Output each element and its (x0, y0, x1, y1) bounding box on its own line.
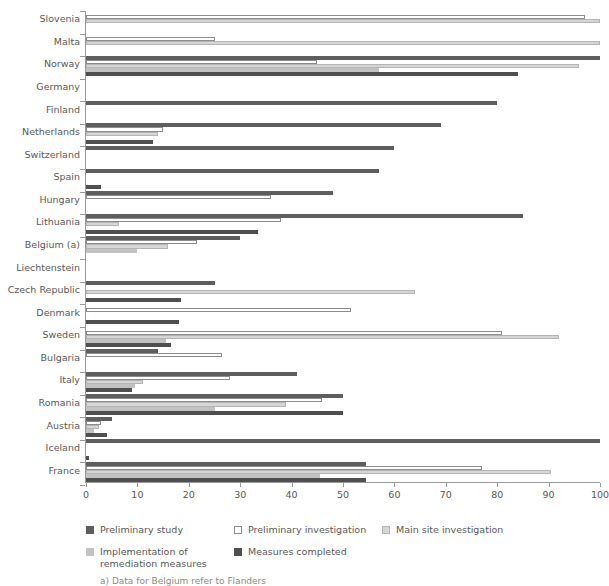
bar (86, 41, 600, 45)
legend-label: Main site investigation (396, 524, 503, 536)
bar (86, 185, 101, 189)
legend-item[interactable]: Preliminary investigation (234, 524, 366, 536)
bar (86, 230, 258, 234)
category-label: Switzerland (25, 150, 80, 160)
bar (86, 343, 171, 347)
category-label: Norway (44, 59, 80, 69)
x-axis-tick (292, 483, 293, 487)
x-axis-tick-label: 50 (337, 489, 349, 500)
x-axis-tick (600, 483, 601, 487)
y-axis-tick (80, 214, 85, 215)
category-label: Belgium (a) (25, 240, 80, 250)
category-label: Malta (54, 37, 80, 47)
x-axis-tick-label: 80 (491, 489, 503, 500)
category-label: Romania (38, 398, 80, 408)
bar (86, 146, 394, 150)
bar (86, 353, 222, 357)
chart-legend: Preliminary studyPreliminary investigati… (86, 524, 586, 570)
category-label: Austria (46, 421, 80, 431)
y-axis-tick (80, 350, 85, 351)
y-axis-tick (80, 237, 85, 238)
category-label: Spain (53, 172, 80, 182)
category-label: Finland (46, 105, 80, 115)
x-axis-tick-label: 40 (286, 489, 298, 500)
bar (86, 249, 137, 253)
bar (86, 101, 497, 105)
plot-wrapper: SloveniaMaltaNorwayGermanyFinlandNetherl… (0, 8, 606, 488)
y-axis-tick (80, 169, 85, 170)
legend-swatch-icon (86, 526, 94, 534)
bar (86, 132, 158, 136)
y-axis-tick (80, 192, 85, 193)
legend-swatch-icon (234, 548, 242, 556)
legend-item[interactable]: Implementation of remediation measures (86, 546, 207, 570)
category-label: Sweden (42, 330, 80, 340)
legend-label: Preliminary study (100, 524, 183, 536)
y-axis-tick (80, 372, 85, 373)
legend-swatch-icon (234, 526, 242, 534)
x-axis-tick-label: 70 (440, 489, 452, 500)
x-axis-tick (137, 483, 138, 487)
y-axis-tick (80, 79, 85, 80)
category-label: Denmark (36, 308, 80, 318)
category-label: Czech Republic (8, 285, 80, 295)
x-axis-tick (394, 483, 395, 487)
x-axis-tick-label: 20 (183, 489, 195, 500)
category-label: Italy (59, 375, 80, 385)
legend-item[interactable]: Measures completed (234, 546, 347, 558)
y-axis-tick (80, 327, 85, 328)
legend-item[interactable]: Preliminary study (86, 524, 183, 536)
bar (86, 290, 415, 294)
bar (86, 72, 518, 76)
legend-label: Preliminary investigation (248, 524, 366, 536)
category-label: Germany (36, 82, 80, 92)
bar (86, 281, 215, 285)
y-axis-tick (80, 101, 85, 102)
category-label: Bulgaria (41, 353, 80, 363)
category-axis-labels: SloveniaMaltaNorwayGermanyFinlandNetherl… (0, 8, 80, 482)
x-axis-tick-label: 90 (543, 489, 555, 500)
y-axis-tick (80, 56, 85, 57)
x-axis-tick (343, 483, 344, 487)
y-axis-tick (80, 282, 85, 283)
x-axis-tick (240, 483, 241, 487)
bar (86, 411, 343, 415)
bar (86, 456, 89, 460)
x-axis-tick-label: 10 (131, 489, 143, 500)
x-axis-tick (549, 483, 550, 487)
bar (86, 195, 271, 199)
bar (86, 169, 379, 173)
x-axis-tick (189, 483, 190, 487)
y-axis-tick (80, 395, 85, 396)
legend-swatch-icon (382, 526, 390, 534)
bar (86, 222, 119, 226)
y-axis-tick (80, 11, 85, 12)
category-label: Iceland (46, 443, 80, 453)
x-axis-tick-label: 30 (234, 489, 246, 500)
bar (86, 433, 107, 437)
category-label: Slovenia (40, 14, 80, 24)
category-label: Netherlands (22, 127, 80, 137)
bar (86, 320, 179, 324)
y-axis-tick (80, 462, 85, 463)
bar (86, 478, 366, 482)
bar (86, 19, 600, 23)
y-axis-tick (80, 440, 85, 441)
category-label: Hungary (39, 195, 80, 205)
y-axis-tick (80, 34, 85, 35)
x-axis-tick-label: 100 (591, 489, 609, 500)
y-axis-tick (80, 304, 85, 305)
legend-item[interactable]: Main site investigation (382, 524, 503, 536)
plot-area (86, 8, 600, 482)
x-axis-tick (86, 483, 87, 487)
bar (86, 298, 181, 302)
category-label: Lithuania (36, 217, 80, 227)
y-axis-tick (80, 485, 85, 486)
bar (86, 388, 132, 392)
x-axis-tick-label: 0 (83, 489, 89, 500)
y-axis-tick (80, 259, 85, 260)
legend-label: Implementation of remediation measures (100, 546, 207, 570)
x-axis-tick (497, 483, 498, 487)
x-axis-tick (446, 483, 447, 487)
